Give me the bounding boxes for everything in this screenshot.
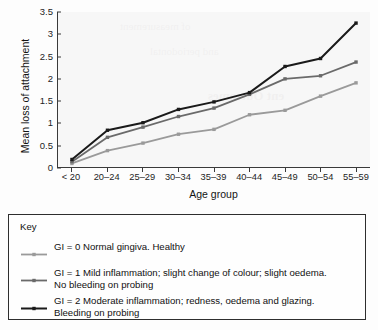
legend-label: GI = 0 Normal gingiva. Healthy (54, 241, 185, 253)
x-tick-label: 35–39 (201, 172, 227, 182)
data-point-marker (212, 106, 215, 109)
data-point-marker (177, 115, 180, 118)
x-tick-label: 45–49 (272, 172, 298, 182)
y-tick-label: 3 (48, 30, 53, 40)
data-point-marker (283, 109, 286, 112)
x-tick-label: 40–44 (236, 172, 262, 182)
data-point-marker (354, 21, 357, 24)
x-tick-mark (214, 168, 215, 172)
x-tick-mark (285, 168, 286, 172)
legend-box: Key GI = 0 Normal gingiva. HealthyGI = 1… (8, 214, 366, 320)
data-point-marker (319, 74, 322, 77)
data-point-marker (177, 133, 180, 136)
x-tick-mark (71, 168, 72, 172)
data-point-marker (141, 121, 144, 124)
plot-svg (58, 12, 370, 167)
x-tick-label: 20–24 (94, 172, 120, 182)
y-axis-tick-labels: 00.511.522.533.5 (22, 12, 53, 168)
x-tick-mark (249, 168, 250, 172)
x-tick-label: 50–54 (307, 172, 333, 182)
plot-frame (57, 12, 370, 168)
data-point-marker (354, 60, 357, 63)
x-tick-mark (178, 168, 179, 172)
data-point-marker (283, 65, 286, 68)
data-point-marker (283, 77, 286, 80)
data-point-marker (70, 158, 73, 161)
y-tick-mark (57, 123, 61, 124)
series-line (72, 83, 356, 164)
series-gi-0 (70, 81, 357, 165)
x-tick-mark (356, 168, 357, 172)
data-point-marker (319, 57, 322, 60)
data-point-marker (319, 94, 322, 97)
y-tick-mark (57, 101, 61, 102)
x-tick-label: 55–59 (343, 172, 369, 182)
y-tick-mark (57, 12, 61, 13)
y-tick-label: 3.5 (40, 7, 53, 17)
legend-swatch (20, 271, 48, 280)
legend-title: Key (20, 221, 37, 232)
data-point-marker (141, 125, 144, 128)
y-tick-mark (57, 78, 61, 79)
x-axis-label: Age group (57, 188, 370, 200)
x-axis-tick-labels: < 2020–2425–2930–3435–3940–4445–4950–545… (57, 172, 370, 185)
series-gi-2 (70, 21, 357, 161)
series-line (72, 23, 356, 159)
y-tick-label: 1.5 (40, 96, 53, 106)
series-gi-1 (70, 60, 357, 163)
data-point-marker (106, 129, 109, 132)
legend-label: GI = 2 Moderate inflammation; redness, o… (54, 295, 315, 318)
data-point-marker (177, 108, 180, 111)
x-tick-label: 30–34 (165, 172, 191, 182)
y-tick-mark (57, 34, 61, 35)
x-tick-mark (107, 168, 108, 172)
data-point-marker (106, 149, 109, 152)
y-tick-mark (57, 168, 61, 169)
x-tick-label: < 20 (62, 172, 80, 182)
data-point-marker (106, 136, 109, 139)
data-point-marker (248, 113, 251, 116)
data-point-marker (212, 128, 215, 131)
chart-container: Mean loss of attachment 00.511.522.533.5… (0, 0, 378, 205)
y-tick-mark (57, 145, 61, 146)
legend-swatch (20, 245, 48, 254)
legend-swatch (20, 299, 48, 308)
y-tick-mark (57, 56, 61, 57)
y-tick-label: 2.5 (40, 52, 53, 62)
data-point-marker (141, 141, 144, 144)
y-tick-label: 2 (48, 74, 53, 84)
y-tick-label: 1 (48, 119, 53, 129)
data-point-marker (212, 100, 215, 103)
y-tick-label: 0 (48, 163, 53, 173)
x-tick-mark (320, 168, 321, 172)
series-line (72, 62, 356, 162)
x-tick-label: 25–29 (129, 172, 155, 182)
x-tick-mark (142, 168, 143, 172)
data-point-marker (354, 81, 357, 84)
data-point-marker (248, 91, 251, 94)
legend-label: GI = 1 Mild inflammation; slight change … (54, 267, 327, 290)
y-tick-label: 0.5 (40, 141, 53, 151)
